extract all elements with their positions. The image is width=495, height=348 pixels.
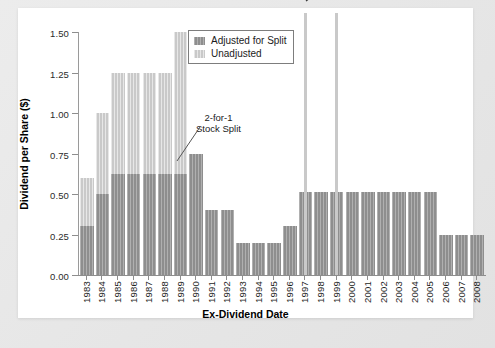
y-tick-label: 1.50	[50, 28, 69, 39]
x-tick-label: 2008	[471, 281, 482, 303]
x-tick-mark	[258, 276, 259, 280]
bar-adjusted	[408, 192, 421, 275]
x-tick-label: 2007	[456, 281, 467, 303]
y-tick-mark	[72, 73, 78, 74]
x-tick-label: 1990	[190, 281, 201, 303]
bar-adjusted	[377, 192, 390, 275]
bar-slot	[143, 32, 156, 275]
chart-plate: Dividend per Share ($) Ex-Dividend Date …	[18, 8, 473, 318]
bar-slot	[408, 32, 421, 275]
x-tick-mark	[429, 276, 430, 280]
y-tick-label: 1.25	[50, 68, 69, 79]
x-tick-mark	[211, 276, 212, 280]
y-tick-label: 1.00	[50, 109, 69, 120]
stock-split-line1: 2-for-1	[196, 112, 241, 123]
truncated-bar	[335, 13, 338, 275]
stock-split-annotation: 2-for-1 Stock Split	[196, 112, 241, 134]
y-tick-label: 0.75	[50, 149, 69, 160]
x-tick-label: 1983	[81, 281, 92, 303]
bar-slot	[236, 32, 249, 275]
y-axis-title: Dividend per Share ($)	[18, 98, 30, 209]
x-tick-label: 1999	[331, 281, 342, 303]
bar-adjusted	[96, 194, 109, 275]
bar-slot	[111, 32, 124, 275]
legend-item-unadjusted: Unadjusted	[194, 47, 287, 60]
x-tick-label: 1995	[268, 281, 279, 303]
bar-adjusted	[252, 243, 265, 275]
bar-adjusted	[314, 192, 327, 275]
y-tick-mark	[72, 194, 78, 195]
x-tick-label: 1987	[143, 281, 154, 303]
axis-break-zigzag-icon	[302, 0, 318, 2]
x-tick-label: 1991	[206, 281, 217, 303]
x-tick-mark	[398, 276, 399, 280]
x-tick-mark	[351, 276, 352, 280]
x-tick-label: 2000	[346, 281, 357, 303]
bar-slot	[377, 32, 390, 275]
bar-adjusted	[127, 174, 140, 275]
x-tick-mark	[476, 276, 477, 280]
x-tick-mark	[367, 276, 368, 280]
x-tick-label: 1985	[112, 281, 123, 303]
legend-label-adjusted: Adjusted for Split	[211, 35, 287, 46]
bar-slot	[221, 32, 234, 275]
x-tick-label: 1996	[284, 281, 295, 303]
bar-slot	[80, 32, 93, 275]
plot-area: 0.000.250.500.751.001.251.50 19831984198…	[78, 32, 486, 276]
bar-adjusted	[80, 226, 93, 275]
bar-slot	[96, 32, 109, 275]
x-tick-mark	[414, 276, 415, 280]
y-tick-label: 0.00	[50, 271, 69, 282]
y-tick-mark	[72, 32, 78, 33]
bar-slot	[439, 32, 452, 275]
bar-slot	[314, 32, 327, 275]
x-tick-label: 2003	[393, 281, 404, 303]
x-tick-mark	[289, 276, 290, 280]
bar-slot	[346, 32, 359, 275]
chart-legend: Adjusted for Split Unadjusted	[188, 30, 294, 64]
bar-adjusted	[267, 243, 280, 275]
y-tick-mark	[72, 275, 78, 276]
bar-adjusted	[205, 210, 218, 275]
bar-group	[79, 32, 486, 275]
legend-swatch-adjusted-icon	[194, 37, 205, 45]
y-tick-mark	[72, 113, 78, 114]
bar-adjusted	[346, 192, 359, 275]
bar-adjusted	[158, 174, 171, 275]
x-tick-mark	[164, 276, 165, 280]
x-tick-mark	[101, 276, 102, 280]
bar-adjusted	[111, 174, 124, 275]
x-tick-label: 1993	[237, 281, 248, 303]
legend-item-adjusted: Adjusted for Split	[194, 34, 287, 47]
bar-adjusted	[470, 235, 483, 276]
x-tick-mark	[117, 276, 118, 280]
legend-label-unadjusted: Unadjusted	[211, 48, 262, 59]
bar-slot	[158, 32, 171, 275]
bar-slot	[267, 32, 280, 275]
bar-slot	[392, 32, 405, 275]
x-tick-mark	[336, 276, 337, 280]
x-tick-mark	[195, 276, 196, 280]
stock-split-line2: Stock Split	[196, 123, 241, 134]
figure-canvas: Dividend per Share ($) Ex-Dividend Date …	[0, 0, 495, 348]
y-tick-label: 0.25	[50, 230, 69, 241]
truncated-bar	[304, 13, 307, 275]
y-tick-mark	[72, 235, 78, 236]
bar-slot	[205, 32, 218, 275]
bar-slot	[127, 32, 140, 275]
bar-slot	[424, 32, 437, 275]
x-tick-label: 1994	[253, 281, 264, 303]
bar-adjusted	[439, 235, 452, 276]
bar-slot	[252, 32, 265, 275]
bar-slot	[361, 32, 374, 275]
x-tick-mark	[383, 276, 384, 280]
x-tick-label: 1988	[159, 281, 170, 303]
x-axis-line	[78, 275, 486, 276]
x-tick-mark	[133, 276, 134, 280]
legend-swatch-unadjusted-icon	[194, 50, 205, 58]
x-tick-label: 1989	[175, 281, 186, 303]
bar-slot	[283, 32, 296, 275]
bar-adjusted	[189, 154, 202, 276]
x-tick-label: 2004	[409, 281, 420, 303]
x-tick-label: 2005	[424, 281, 435, 303]
